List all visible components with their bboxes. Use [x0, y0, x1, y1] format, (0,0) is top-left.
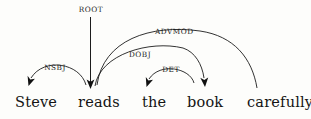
arc-advmod: [97, 29, 257, 88]
arc-root: [87, 17, 95, 89]
token-reads: reads: [78, 94, 120, 110]
token-the: the: [142, 94, 166, 110]
relation-label-dobj: DOBJ: [127, 50, 153, 59]
dependency-parse-diagram: ROOT NSBJ DOBJ DET ADVMOD Steve reads th…: [0, 0, 311, 119]
advmod-arc: [97, 29, 257, 88]
relation-label-det: DET: [160, 65, 182, 74]
dobj-arrowhead: [200, 77, 208, 87]
token-steve: Steve: [15, 94, 57, 110]
token-carefully: carefully: [247, 94, 311, 110]
relation-label-nsbj: NSBJ: [42, 63, 68, 72]
relation-label-advmod: ADVMOD: [155, 27, 193, 36]
token-book: book: [187, 94, 223, 110]
relation-label-root: ROOT: [78, 5, 104, 14]
